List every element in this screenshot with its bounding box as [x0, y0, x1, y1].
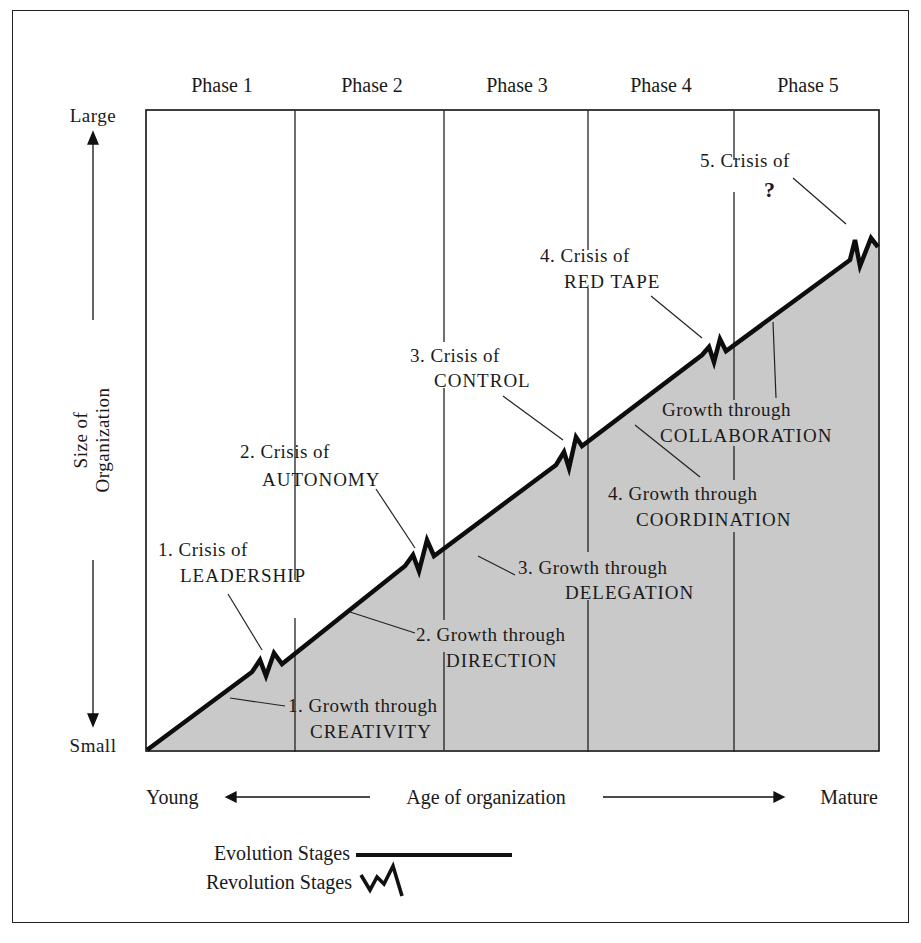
crisis-1-line2: LEADERSHIP [180, 565, 306, 586]
y-axis-title-line1: Size of [70, 411, 91, 468]
crisis-2-line2: AUTONOMY [262, 469, 380, 490]
growth-2-line1: 2. Growth through [416, 624, 565, 645]
growth-3-line2: DELEGATION [565, 582, 694, 603]
crisis-3-line2: CONTROL [434, 370, 531, 391]
y-axis-large-label: Large [70, 105, 116, 126]
x-axis-title: Age of organization [406, 786, 566, 809]
x-axis-mature-label: Mature [820, 786, 878, 808]
phase-3-label: Phase 3 [486, 74, 548, 96]
phase-5-label: Phase 5 [777, 74, 839, 96]
growth-2-line2: DIRECTION [446, 650, 557, 671]
growth-area [147, 238, 878, 750]
greiner-growth-diagram: Phase 1 Phase 2 Phase 3 Phase 4 Phase 5 … [0, 0, 921, 943]
phase-1-label: Phase 1 [191, 74, 253, 96]
legend-revolution-label: Revolution Stages [206, 871, 352, 894]
y-axis-title-line2: Organization [92, 388, 113, 493]
crisis-5-line1: 5. Crisis of [700, 150, 790, 171]
legend-revolution-zigzag-icon [361, 866, 402, 896]
crisis-2-line1: 2. Crisis of [240, 441, 330, 462]
crisis-5-line2: ? [764, 177, 775, 202]
growth-4-line2: COORDINATION [636, 509, 792, 530]
growth-4-line1: 4. Growth through [608, 483, 757, 504]
y-axis-small-label: Small [70, 735, 117, 756]
phase-2-label: Phase 2 [341, 74, 403, 96]
growth-5-line1: Growth through [662, 399, 791, 420]
crisis-4-line2: RED TAPE [564, 271, 660, 292]
crisis-1-line1: 1. Crisis of [158, 539, 248, 560]
legend-evolution-label: Evolution Stages [214, 842, 350, 865]
crisis-4-line1: 4. Crisis of [540, 245, 630, 266]
crisis-3-line1: 3. Crisis of [410, 345, 500, 366]
growth-3-line1: 3. Growth through [518, 557, 667, 578]
phase-4-label: Phase 4 [630, 74, 692, 96]
x-axis-young-label: Young [146, 786, 198, 809]
growth-1-line1: 1. Growth through [288, 695, 437, 716]
growth-1-line2: CREATIVITY [310, 721, 432, 742]
growth-5-line2: COLLABORATION [660, 425, 832, 446]
